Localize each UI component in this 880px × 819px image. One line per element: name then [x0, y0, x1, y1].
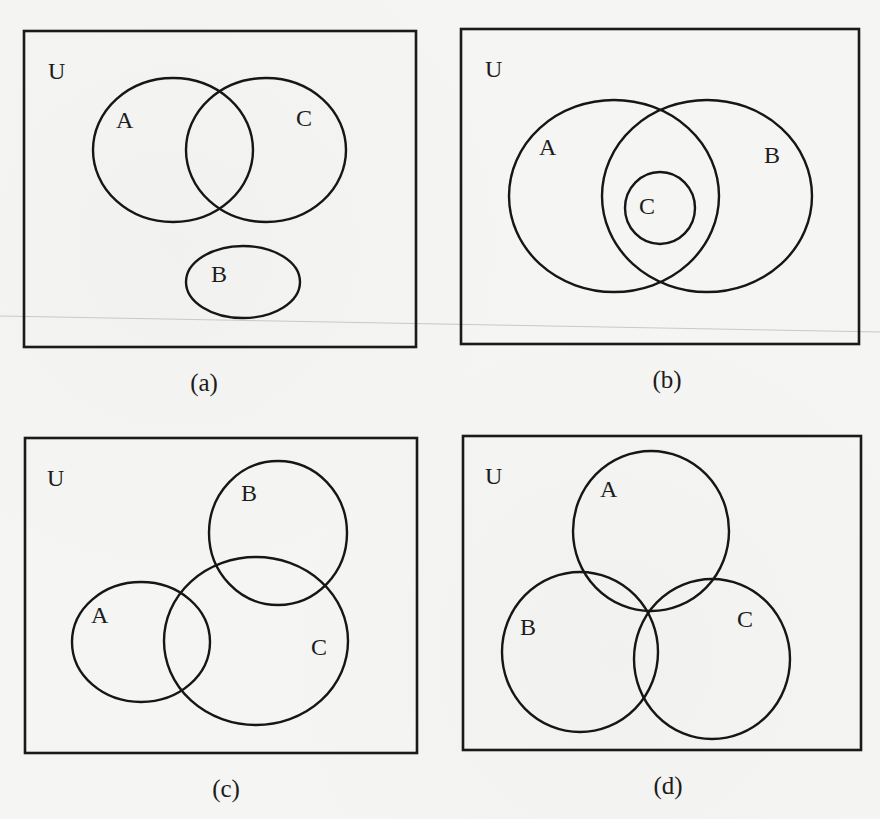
set-a-circle	[93, 78, 253, 222]
panel-caption: (b)	[652, 366, 681, 394]
set-c-circle	[625, 172, 695, 244]
set-a-label: A	[91, 602, 109, 628]
universe-label: U	[485, 56, 502, 82]
set-b-circle	[602, 100, 812, 292]
set-c-label: C	[737, 606, 753, 632]
set-a-label: A	[600, 476, 618, 502]
panel-caption: (c)	[212, 775, 240, 803]
panel-b: U A B C (b)	[461, 29, 859, 394]
panel-caption: (d)	[653, 772, 682, 800]
set-b-ellipse	[186, 246, 300, 318]
panel-d: U A B C (d)	[463, 436, 861, 800]
set-c-label: C	[311, 634, 327, 660]
panel-caption: (a)	[190, 369, 218, 397]
set-a-circle	[573, 451, 729, 611]
scan-artifact-line	[0, 316, 880, 332]
set-a-circle	[509, 100, 719, 292]
universe-label: U	[485, 463, 502, 489]
set-b-circle	[209, 461, 347, 605]
venn-diagram-figure: U A C B (a) U A B C (b) U	[0, 0, 880, 819]
universe-frame	[463, 436, 861, 750]
set-b-label: B	[211, 261, 227, 287]
set-a-circle	[72, 582, 210, 702]
universe-frame	[461, 29, 859, 344]
set-c-label: C	[639, 193, 655, 219]
universe-frame	[24, 31, 416, 347]
panel-a: U A C B (a)	[24, 31, 416, 397]
panel-c: U A B C (c)	[25, 438, 417, 803]
universe-frame	[25, 438, 417, 753]
universe-label: U	[48, 58, 65, 84]
set-a-label: A	[539, 134, 557, 160]
set-b-label: B	[764, 142, 780, 168]
set-b-label: B	[241, 480, 257, 506]
set-c-circle	[186, 78, 346, 222]
set-a-label: A	[116, 107, 134, 133]
venn-diagrams-canvas: U A C B (a) U A B C (b) U	[0, 0, 880, 819]
universe-label: U	[47, 465, 64, 491]
set-c-label: C	[296, 105, 312, 131]
set-b-label: B	[520, 614, 536, 640]
